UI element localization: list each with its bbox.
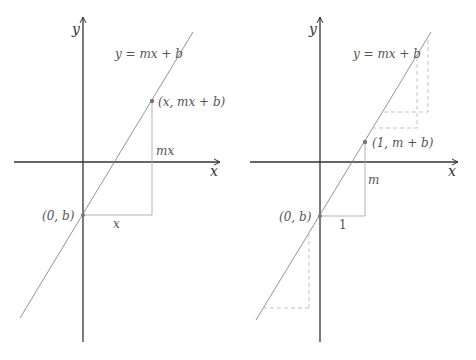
x-axis-label: x	[210, 163, 218, 179]
y-axis-label: y	[71, 21, 81, 37]
function-line	[20, 32, 193, 318]
x-axis-label: x	[448, 163, 456, 179]
slope-intercept-diagram: y x y = mx + b (x, mx + b) mx (0, b) x y…	[0, 0, 476, 360]
line-equation-label: y = mx + b	[114, 47, 183, 61]
point-label: (x, mx + b)	[158, 95, 226, 109]
y-axis-label: y	[308, 21, 318, 37]
intercept-marker	[81, 213, 85, 217]
point-marker	[150, 99, 154, 103]
point-marker	[363, 140, 367, 144]
left-panel: y x y = mx + b (x, mx + b) mx (0, b) x	[14, 17, 226, 342]
run-label: x	[113, 217, 120, 231]
rise-label: m	[368, 173, 379, 187]
right-panel: y x y = mx + b (1, m + b) m (0, b) 1	[250, 17, 458, 342]
line-equation-label: y = mx + b	[352, 47, 421, 61]
rise-label: mx	[156, 144, 174, 158]
intercept-label: (0, b)	[279, 210, 312, 224]
run-label: 1	[339, 218, 347, 232]
intercept-marker	[318, 214, 322, 218]
point-label: (1, m + b)	[372, 136, 434, 150]
intercept-label: (0, b)	[42, 209, 75, 223]
function-line	[256, 32, 431, 320]
